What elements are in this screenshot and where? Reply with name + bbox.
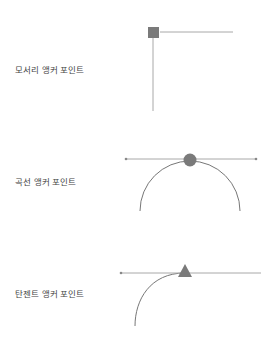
smooth-anchor-figure <box>125 154 258 212</box>
corner-anchor-figure <box>148 27 233 111</box>
curve-segment <box>140 161 240 211</box>
direction-handle-right-icon <box>255 158 258 161</box>
tangent-anchor-figure <box>120 264 261 326</box>
direction-handle-left-icon <box>125 158 128 161</box>
square-anchor-icon <box>148 27 159 38</box>
circle-anchor-icon <box>184 154 197 167</box>
triangle-anchor-icon <box>178 264 192 277</box>
anchor-point-diagram <box>0 0 276 348</box>
tangent-curve-segment <box>135 273 185 326</box>
tangent-handle-icon <box>120 272 123 275</box>
